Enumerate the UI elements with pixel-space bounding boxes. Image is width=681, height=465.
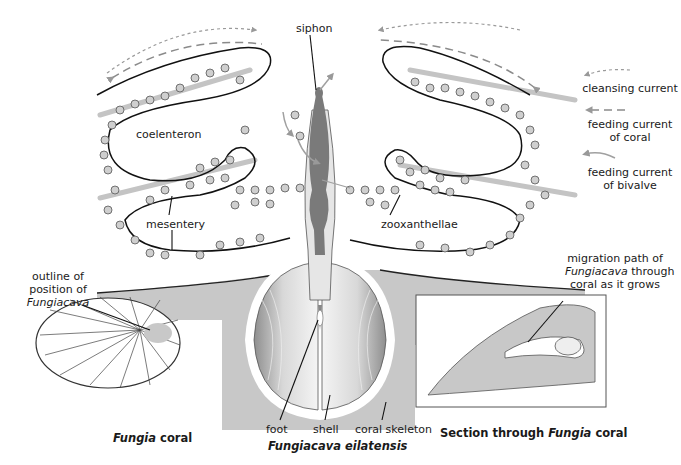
section-inset — [416, 295, 606, 407]
caption-section-through-fungia: Section through Fungia coral — [440, 427, 627, 440]
label-migration-path: migration path of Fungiacava through cor… — [565, 252, 665, 291]
label-foot: foot — [266, 423, 288, 436]
caption-fungiacava-eilatensis: Fungiacava eilatensis — [268, 440, 407, 453]
label-mesentery: mesentery — [146, 218, 205, 231]
caption-fungia-coral: Fungia coral — [113, 432, 192, 445]
fungia-coral-drawing — [36, 297, 180, 388]
label-coral-skeleton: coral skeleton — [355, 423, 432, 436]
legend-feeding-current-bivalve: feeding current of bivalve — [580, 166, 680, 192]
label-zooxanthellae: zooxanthellae — [381, 218, 458, 231]
label-outline-of-position: outline of position of Fungiacava — [18, 270, 98, 309]
label-siphon: siphon — [296, 22, 332, 35]
label-coelenteron: coelenteron — [136, 128, 201, 141]
siphon — [305, 87, 335, 330]
label-shell: shell — [313, 423, 339, 436]
coral-bivalve-diagram — [0, 0, 681, 465]
legend-cleansing-current: cleansing current — [580, 82, 680, 95]
legend-feeding-current-coral: feeding current of coral — [580, 118, 680, 144]
